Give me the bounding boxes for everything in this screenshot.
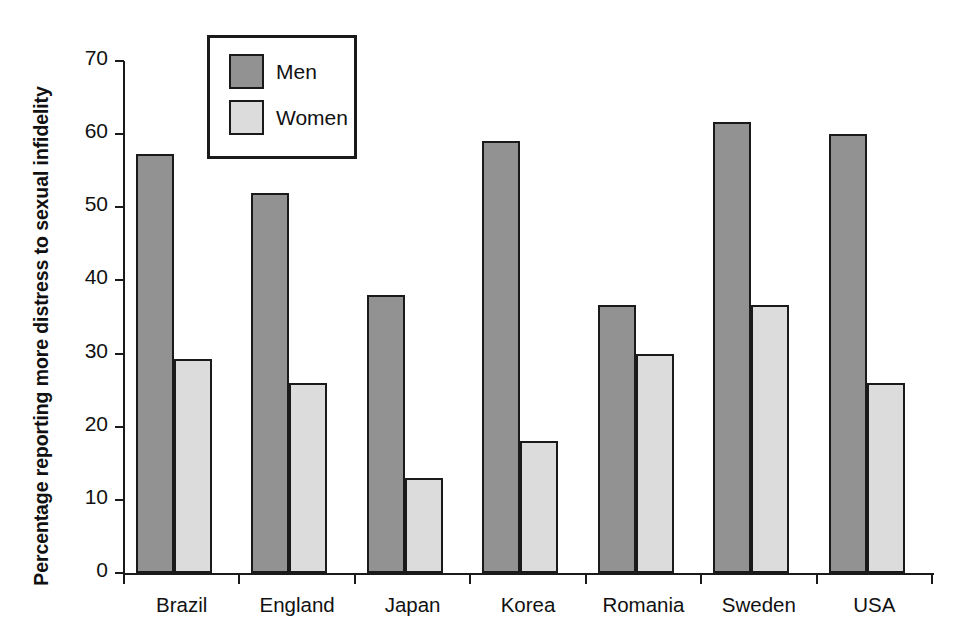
y-axis-tick-label: 50 [48, 193, 108, 214]
y-axis-title-container: Percentage reporting more distress to se… [0, 0, 88, 642]
chart-legend: Men Women [207, 35, 357, 159]
y-axis-tick: 50 [115, 206, 124, 208]
bar-chart-figure: Percentage reporting more distress to se… [0, 0, 973, 642]
y-axis-tick-label: 30 [48, 340, 108, 361]
x-axis-tick [123, 573, 125, 584]
bar-sweden-men [713, 122, 751, 573]
x-axis-tick [469, 573, 471, 584]
x-axis-label-sweden: Sweden [701, 593, 816, 617]
bar-england-men [251, 193, 289, 573]
x-axis-label-england: England [239, 593, 354, 617]
bar-brazil-men [136, 154, 174, 573]
legend-swatch-women-icon [229, 100, 264, 135]
bar-england-women [289, 383, 327, 573]
bar-japan-men [367, 295, 405, 573]
y-axis-tick-label: 20 [48, 413, 108, 434]
x-axis-label-romania: Romania [586, 593, 701, 617]
bar-romania-women [636, 354, 674, 573]
x-axis-tick [238, 573, 240, 584]
legend-label-women: Women [276, 107, 348, 128]
y-axis-tick-label: 40 [48, 266, 108, 287]
legend-swatch-men-icon [229, 54, 264, 89]
x-axis-label-usa: USA [817, 593, 932, 617]
bar-japan-women [405, 478, 443, 573]
y-axis-tick: 60 [115, 133, 124, 135]
y-axis-tick: 70 [115, 60, 124, 62]
y-axis-tick-label: 10 [48, 486, 108, 507]
bar-usa-women [867, 383, 905, 573]
x-axis-tick [354, 573, 356, 584]
y-axis-line [123, 61, 125, 574]
y-axis-tick-label: 60 [48, 120, 108, 141]
x-axis-line [123, 573, 934, 575]
x-axis-label-japan: Japan [355, 593, 470, 617]
bar-korea-men [482, 141, 520, 573]
x-axis-tick [931, 573, 933, 584]
y-axis-tick-label: 70 [48, 47, 108, 68]
bar-romania-men [598, 305, 636, 573]
x-axis-tick [816, 573, 818, 584]
legend-label-men: Men [276, 61, 317, 82]
x-axis-label-brazil: Brazil [124, 593, 239, 617]
y-axis-tick: 40 [115, 279, 124, 281]
bar-brazil-women [174, 359, 212, 573]
bar-korea-women [520, 441, 558, 573]
y-axis-tick: 10 [115, 499, 124, 501]
y-axis-tick: 20 [115, 426, 124, 428]
y-axis-tick: 30 [115, 353, 124, 355]
legend-item-men: Men [229, 54, 317, 89]
legend-item-women: Women [229, 100, 348, 135]
x-axis-tick [700, 573, 702, 584]
y-axis-title: Percentage reporting more distress to se… [0, 76, 85, 596]
x-axis-label-korea: Korea [470, 593, 585, 617]
bar-sweden-women [751, 305, 789, 573]
y-axis-tick-label: 0 [48, 559, 108, 580]
bar-usa-men [829, 134, 867, 573]
x-axis-tick [585, 573, 587, 584]
